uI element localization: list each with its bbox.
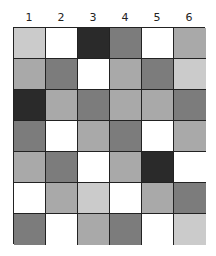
grid-cell [142, 214, 174, 245]
grid-cell [110, 59, 142, 90]
column-label: 2 [45, 11, 77, 25]
grid-cell [14, 90, 46, 121]
grid-cell [174, 90, 206, 121]
grid-cell [142, 28, 174, 59]
grid-cell [78, 121, 110, 152]
grid-cell [110, 121, 142, 152]
grid-cell [174, 59, 206, 90]
grid-cell [78, 214, 110, 245]
shade-grid [13, 27, 205, 244]
grid-cell [174, 183, 206, 214]
column-label: 4 [109, 11, 141, 25]
grid-cell [110, 183, 142, 214]
grid-cell [78, 28, 110, 59]
grid-cell [46, 152, 78, 183]
grid-cell [110, 90, 142, 121]
grid-cell [142, 152, 174, 183]
grid-cell [174, 214, 206, 245]
grid-cell [14, 183, 46, 214]
grid-cell [142, 59, 174, 90]
grid-cell [46, 183, 78, 214]
grid-cell [142, 183, 174, 214]
grid-cell [78, 152, 110, 183]
grid-cell [46, 121, 78, 152]
grid-cell [14, 28, 46, 59]
grid-cell [110, 152, 142, 183]
grid-cell [14, 59, 46, 90]
grid-cell [46, 90, 78, 121]
grid-cell [46, 214, 78, 245]
grid-cell [14, 121, 46, 152]
column-label: 3 [77, 11, 109, 25]
grid-cell [110, 214, 142, 245]
grid-cell [110, 28, 142, 59]
grid-cell [78, 90, 110, 121]
grid-cell [78, 59, 110, 90]
grid-cell [14, 152, 46, 183]
column-label: 1 [13, 11, 45, 25]
grid-cell [174, 121, 206, 152]
grid-cell [174, 152, 206, 183]
grid-cell [142, 121, 174, 152]
grid-cell [14, 214, 46, 245]
column-labels: 123456 [13, 11, 205, 25]
grid-cell [78, 183, 110, 214]
grid-cell [174, 28, 206, 59]
grid-cell [46, 28, 78, 59]
grid-cell [46, 59, 78, 90]
column-label: 6 [173, 11, 205, 25]
column-label: 5 [141, 11, 173, 25]
grid-cell [142, 90, 174, 121]
